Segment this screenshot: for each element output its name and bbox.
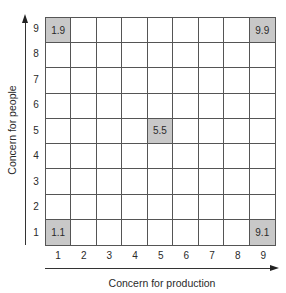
- grid-cell: [71, 144, 96, 169]
- x-axis-arrow-icon: [270, 265, 279, 271]
- y-axis-label: Concern for people: [6, 68, 18, 192]
- grid-cell: [173, 43, 198, 68]
- grid-cell: [97, 43, 122, 68]
- grid-cell: [122, 68, 147, 93]
- grid-cell: [199, 18, 224, 43]
- grid-cell: [224, 68, 249, 93]
- y-tick-label: 6: [31, 99, 41, 110]
- grid-cell: [71, 169, 96, 194]
- grid: 1.99.95.51.19.1: [45, 17, 276, 246]
- x-tick-label: 7: [199, 250, 225, 261]
- highlighted-cell: 9.9: [250, 18, 275, 43]
- grid-cell: [173, 169, 198, 194]
- grid-cell: [250, 68, 275, 93]
- grid-cell: [148, 94, 173, 119]
- grid-cell: [122, 119, 147, 144]
- grid-cell: [71, 119, 96, 144]
- grid-cell: [199, 195, 224, 220]
- grid-cell: [97, 94, 122, 119]
- grid-cell: [122, 195, 147, 220]
- grid-cell: [199, 169, 224, 194]
- grid-cell: [122, 220, 147, 245]
- grid-cell: [148, 68, 173, 93]
- grid-cell: [224, 94, 249, 119]
- grid-cell: [250, 169, 275, 194]
- grid-cell: [199, 68, 224, 93]
- x-tick-label: 5: [148, 250, 174, 261]
- y-tick-label: 1: [31, 227, 41, 238]
- grid-cell: [71, 68, 96, 93]
- grid-cell: [46, 144, 71, 169]
- grid-cell: [173, 144, 198, 169]
- grid-cell: [224, 195, 249, 220]
- grid-cell: [71, 43, 96, 68]
- grid-cell: [173, 220, 198, 245]
- x-tick-label: 8: [225, 250, 251, 261]
- grid-cell: [46, 43, 71, 68]
- y-tick-label: 3: [31, 176, 41, 187]
- x-tick-label: 2: [71, 250, 97, 261]
- y-tick-label: 5: [31, 125, 41, 136]
- grid-cell: [46, 195, 71, 220]
- grid-cell: [97, 220, 122, 245]
- grid-cell: [122, 18, 147, 43]
- grid-cell: [199, 43, 224, 68]
- grid-cell: [148, 169, 173, 194]
- x-tick-label: 6: [173, 250, 199, 261]
- grid-cell: [46, 119, 71, 144]
- grid-cell: [148, 220, 173, 245]
- y-tick-label: 9: [31, 23, 41, 34]
- grid-cell: [71, 220, 96, 245]
- y-axis-line: [25, 22, 26, 245]
- grid-cell: [250, 94, 275, 119]
- grid-cell: [46, 94, 71, 119]
- grid-cell: [148, 144, 173, 169]
- x-tick-label: 3: [96, 250, 122, 261]
- grid-cell: [148, 18, 173, 43]
- x-axis-line: [45, 268, 271, 269]
- grid-cell: [71, 18, 96, 43]
- grid-cell: [199, 119, 224, 144]
- highlighted-cell: 5.5: [148, 119, 173, 144]
- grid-cell: [224, 18, 249, 43]
- grid-cell: [97, 144, 122, 169]
- y-tick-label: 2: [31, 201, 41, 212]
- grid-cell: [122, 43, 147, 68]
- x-tick-label: 4: [122, 250, 148, 261]
- grid-cell: [250, 195, 275, 220]
- grid-cell: [199, 220, 224, 245]
- grid-cell: [224, 144, 249, 169]
- grid-cell: [97, 169, 122, 194]
- highlighted-cell: 9.1: [250, 220, 275, 245]
- grid-cell: [173, 195, 198, 220]
- grid-cell: [97, 18, 122, 43]
- grid-cell: [250, 43, 275, 68]
- grid-cell: [224, 43, 249, 68]
- grid-cell: [97, 68, 122, 93]
- grid-cell: [173, 68, 198, 93]
- y-tick-label: 7: [31, 74, 41, 85]
- grid-cell: [250, 144, 275, 169]
- grid-cell: [71, 195, 96, 220]
- grid-cell: [173, 119, 198, 144]
- grid-cell: [173, 18, 198, 43]
- grid-cell: [148, 43, 173, 68]
- grid-cell: [46, 169, 71, 194]
- grid-cell: [71, 94, 96, 119]
- grid-cell: [224, 119, 249, 144]
- grid-cell: [199, 94, 224, 119]
- y-tick-label: 8: [31, 48, 41, 59]
- grid-cell: [224, 169, 249, 194]
- highlighted-cell: 1.1: [46, 220, 71, 245]
- grid-cell: [122, 94, 147, 119]
- x-axis-label: Concern for production: [100, 277, 224, 289]
- x-tick-label: 1: [45, 250, 71, 261]
- x-tick-label: 9: [250, 250, 276, 261]
- grid-cell: [46, 68, 71, 93]
- grid-cell: [97, 195, 122, 220]
- grid-cell: [148, 195, 173, 220]
- grid-cell: [122, 144, 147, 169]
- y-axis-arrow-icon: [22, 14, 28, 23]
- grid-cell: [224, 220, 249, 245]
- grid-cell: [97, 119, 122, 144]
